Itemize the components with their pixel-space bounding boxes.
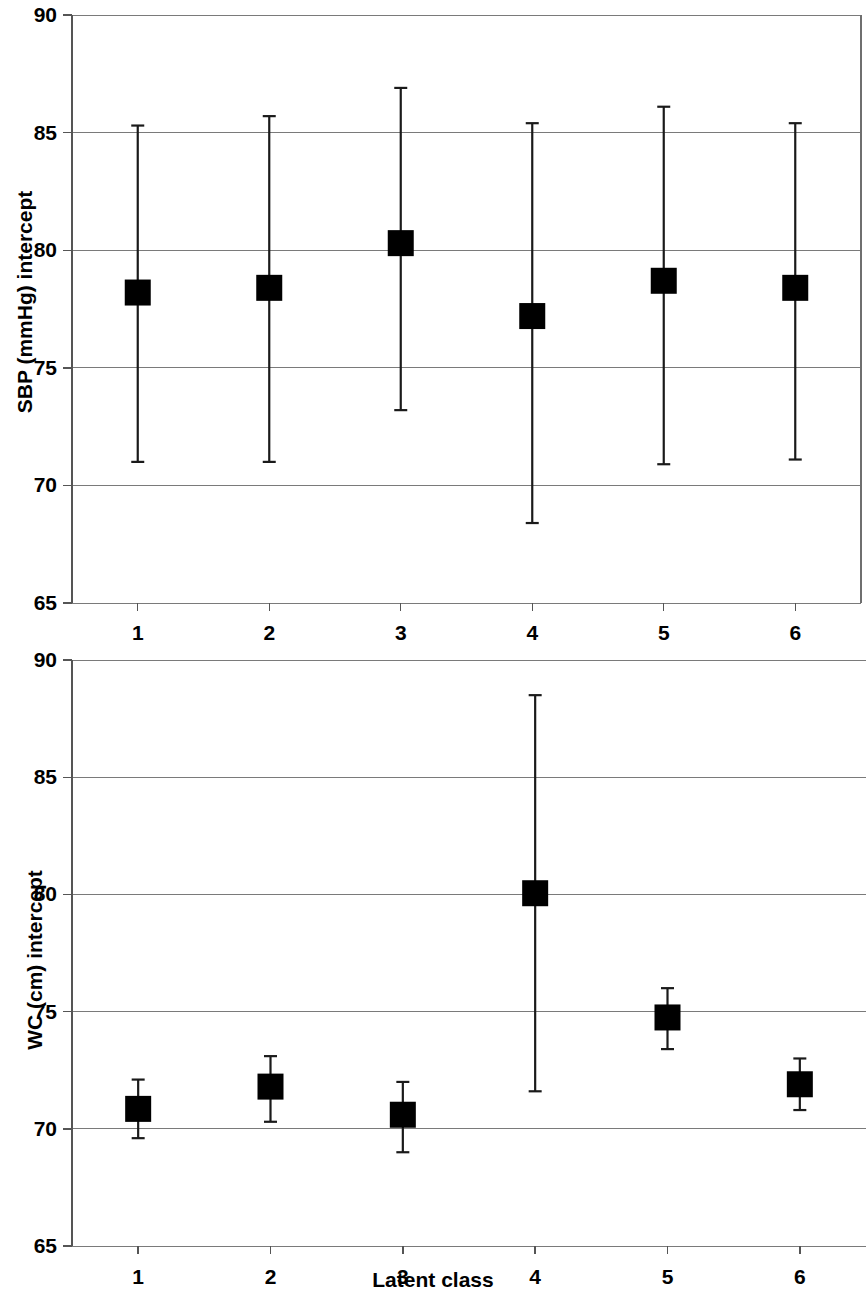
data-point-group <box>782 123 808 459</box>
data-marker-square <box>125 1096 151 1122</box>
data-point-group <box>655 988 681 1049</box>
y-tick-label: 65 <box>34 591 58 614</box>
y-tick-label: 85 <box>34 121 58 144</box>
x-axis-label: Latent class <box>0 1268 866 1292</box>
data-point-group <box>519 123 545 523</box>
y-tick-label: 70 <box>34 473 57 496</box>
data-marker-square <box>519 303 545 329</box>
data-point-group <box>390 1082 416 1152</box>
data-point-group <box>125 1080 151 1139</box>
y-tick-label: 85 <box>34 765 58 788</box>
data-point-group <box>522 695 548 1091</box>
data-point-group <box>125 126 151 462</box>
figure-two-panel-latent-class-intercepts: SBP (mmHg) intercept 908580757065123456 … <box>0 0 866 1304</box>
y-tick-label: 75 <box>34 356 58 379</box>
x-tick-label: 6 <box>789 621 801 644</box>
data-marker-square <box>125 280 151 306</box>
data-point-group <box>258 1056 284 1122</box>
x-tick-label: 1 <box>132 621 144 644</box>
data-point-group <box>651 107 677 465</box>
y-tick-label: 90 <box>34 3 57 26</box>
y-tick-label: 80 <box>34 238 57 261</box>
x-tick-label: 5 <box>658 621 670 644</box>
data-marker-square <box>256 275 282 301</box>
data-marker-square <box>655 1004 681 1030</box>
data-marker-square <box>388 230 414 256</box>
data-marker-square <box>782 275 808 301</box>
data-marker-square <box>787 1071 813 1097</box>
y-tick-label: 70 <box>34 1117 57 1140</box>
panel-sbp: SBP (mmHg) intercept 908580757065123456 <box>0 0 866 648</box>
plot-area-wc: 908580757065123456 <box>0 648 866 1304</box>
data-marker-square <box>390 1102 416 1128</box>
data-marker-square <box>522 880 548 906</box>
data-point-group <box>787 1058 813 1110</box>
y-tick-label: 90 <box>34 648 57 671</box>
x-tick-label: 2 <box>263 621 275 644</box>
data-marker-square <box>651 268 677 294</box>
y-tick-label: 80 <box>34 882 57 905</box>
data-point-group <box>388 88 414 410</box>
y-tick-label: 75 <box>34 1000 58 1023</box>
y-tick-label: 65 <box>34 1234 58 1257</box>
panel-wc: WC (cm) intercept 908580757065123456 Lat… <box>0 648 866 1304</box>
x-tick-label: 3 <box>395 621 407 644</box>
data-point-group <box>256 116 282 462</box>
x-tick-label: 4 <box>526 621 538 644</box>
data-marker-square <box>258 1074 284 1100</box>
plot-area-sbp: 908580757065123456 <box>0 0 866 648</box>
